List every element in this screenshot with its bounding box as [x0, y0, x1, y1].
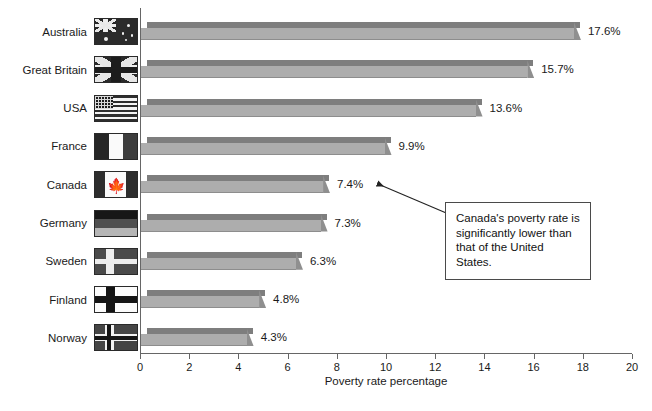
x-tick-label: 18: [577, 361, 589, 373]
bar: [141, 137, 391, 155]
flag-canada-icon: 🍁: [94, 171, 138, 198]
bar: [141, 290, 265, 308]
category-label: Great Britain: [22, 64, 94, 76]
flag-france-icon: [94, 133, 138, 160]
flag-usa-icon: [94, 95, 138, 122]
category-row: USA: [0, 95, 138, 122]
category-row: Finland: [0, 286, 138, 313]
category-row: Australia: [0, 18, 138, 45]
bar-front-face: [141, 28, 574, 40]
category-row: Germany: [0, 210, 138, 237]
flag-germany-icon: [94, 210, 138, 237]
x-tick-label: 10: [380, 361, 392, 373]
bar-value-label: 7.4%: [337, 178, 363, 190]
x-tick: [484, 354, 485, 359]
bar-value-label: 4.8%: [273, 293, 299, 305]
x-tick: [632, 354, 633, 359]
bar-value-label: 15.7%: [541, 63, 574, 75]
bar-front-face: [141, 220, 321, 232]
x-tick-label: 20: [626, 361, 638, 373]
category-label: Australia: [42, 26, 94, 38]
category-label: Finland: [49, 294, 94, 306]
bar: [141, 328, 253, 346]
category-label: Norway: [48, 332, 94, 344]
poverty-rate-bar-chart: AustraliaGreat BritainUSAFranceCanada🍁Ge…: [0, 0, 652, 411]
category-label: USA: [63, 102, 94, 114]
bar: [141, 22, 580, 40]
bar-front-face: [141, 181, 323, 193]
x-tick: [238, 354, 239, 359]
x-axis-title: Poverty rate percentage: [140, 375, 632, 387]
category-row: Great Britain: [0, 56, 138, 83]
bar-front-face: [141, 66, 527, 78]
category-row: Canada🍁: [0, 171, 138, 198]
x-tick: [583, 354, 584, 359]
x-tick-label: 6: [285, 361, 291, 373]
flag-australia-icon: [94, 18, 138, 45]
bar-front-face: [141, 296, 259, 308]
bar-front-face: [141, 143, 385, 155]
x-tick-label: 8: [334, 361, 340, 373]
bar-value-label: 4.3%: [261, 331, 287, 343]
flag-norway-icon: [94, 324, 138, 351]
bar-value-label: 9.9%: [399, 140, 425, 152]
x-tick-label: 14: [478, 361, 490, 373]
flag-finland-icon: [94, 286, 138, 313]
bar-front-face: [141, 258, 296, 270]
category-row: France: [0, 133, 138, 160]
bar-front-face: [141, 105, 476, 117]
x-tick: [337, 354, 338, 359]
bar-value-label: 7.3%: [335, 217, 361, 229]
x-tick-label: 2: [186, 361, 192, 373]
bar: [141, 99, 482, 117]
category-row: Sweden: [0, 248, 138, 275]
x-tick-label: 4: [235, 361, 241, 373]
x-tick-label: 12: [429, 361, 441, 373]
x-tick: [189, 354, 190, 359]
x-tick-label: 0: [137, 361, 143, 373]
x-tick-label: 16: [527, 361, 539, 373]
flag-sweden-icon: [94, 248, 138, 275]
category-label: Sweden: [45, 255, 94, 267]
x-tick: [386, 354, 387, 359]
bar: [141, 175, 329, 193]
bar: [141, 214, 327, 232]
bar: [141, 252, 302, 270]
plot-area: 17.6%15.7%13.6%9.9%7.4%7.3%6.3%4.8%4.3% …: [140, 8, 632, 353]
annotation-callout: Canada's poverty rate is significantly l…: [445, 202, 591, 280]
x-tick: [288, 354, 289, 359]
bar: [141, 60, 533, 78]
bar-value-label: 13.6%: [490, 102, 523, 114]
category-label: Germany: [40, 217, 94, 229]
x-tick: [140, 354, 141, 359]
bar-value-label: 6.3%: [310, 255, 336, 267]
category-label: Canada: [47, 179, 94, 191]
flag-great-britain-icon: [94, 56, 138, 83]
category-label: France: [51, 140, 94, 152]
x-tick: [534, 354, 535, 359]
bar-front-face: [141, 334, 247, 346]
x-tick: [435, 354, 436, 359]
category-row: Norway: [0, 324, 138, 351]
bar-value-label: 17.6%: [588, 25, 621, 37]
